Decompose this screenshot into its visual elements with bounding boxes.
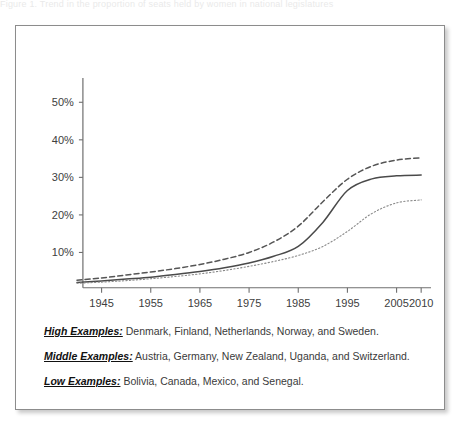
top-caption-text: Figure 1. Trend in the proportion of sea… <box>0 0 333 9</box>
top-caption-strip: Figure 1. Trend in the proportion of sea… <box>0 0 472 11</box>
legend-row-low: Low Examples: Bolivia, Canada, Mexico, a… <box>44 369 424 394</box>
chart-plot-area: 10%20%30%40%50% 194519551965197519851995… <box>16 26 446 316</box>
legend-key-low: Low Examples: <box>44 375 120 387</box>
legend-value-middle: Austria, Germany, New Zealand, Uganda, a… <box>135 350 410 362</box>
x-tick-label: 1945 <box>89 297 113 309</box>
line-chart-svg: 10%20%30%40%50% 194519551965197519851995… <box>16 26 446 316</box>
x-axis: 19451955196519751985199520052010 <box>83 288 434 309</box>
x-tick-label: 1975 <box>237 297 261 309</box>
legend-key-high: High Examples: <box>44 325 123 337</box>
x-tick-label: 2005 <box>384 297 408 309</box>
y-tick-label: 10% <box>52 246 74 258</box>
series-line-high-examples <box>77 158 421 280</box>
x-tick-label: 2010 <box>409 297 433 309</box>
chart-series-group <box>77 158 421 283</box>
y-tick-label: 30% <box>52 171 74 183</box>
figure-card: 10%20%30%40%50% 194519551965197519851995… <box>15 25 445 410</box>
legend-notes: High Examples: Denmark, Finland, Netherl… <box>16 319 446 394</box>
legend-value-low: Bolivia, Canada, Mexico, and Senegal. <box>123 375 303 387</box>
x-tick-label: 1985 <box>286 297 310 309</box>
y-axis: 10%20%30%40%50% <box>52 78 83 288</box>
legend-row-high: High Examples: Denmark, Finland, Netherl… <box>44 319 424 344</box>
y-tick-label: 20% <box>52 209 74 221</box>
series-line-low-examples <box>77 200 421 283</box>
x-tick-label: 1965 <box>188 297 212 309</box>
legend-key-middle: Middle Examples: <box>44 350 133 362</box>
legend-row-middle: Middle Examples: Austria, Germany, New Z… <box>44 344 424 369</box>
legend-value-high: Denmark, Finland, Netherlands, Norway, a… <box>126 325 379 337</box>
y-tick-label: 50% <box>52 96 74 108</box>
x-tick-label: 1995 <box>335 297 359 309</box>
x-tick-label: 1955 <box>139 297 163 309</box>
y-tick-label: 40% <box>52 134 74 146</box>
